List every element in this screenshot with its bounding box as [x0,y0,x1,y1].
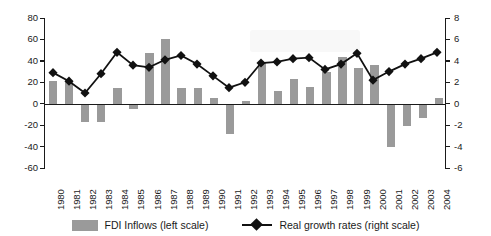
x-axis-labels: 1980198119821983198419851986198719881989… [44,170,446,214]
left-axis-tick-label: 80 [0,13,38,23]
data-point-marker-1994 [272,57,281,66]
x-axis-label-1985: 1985 [136,189,146,210]
x-axis-label-1988: 1988 [185,189,195,210]
line-series-layer [45,18,445,168]
x-axis-label-1991: 1991 [233,189,243,210]
data-point-marker-1987 [160,55,169,64]
x-axis-label-1992: 1992 [249,189,259,210]
x-axis-label-2000: 2000 [378,189,388,210]
zero-baseline [45,104,445,105]
right-axis-tick-label: 0 [454,99,459,109]
x-axis-label-2001: 2001 [394,189,404,210]
right-axis-tick-label: -4 [454,142,462,152]
right-axis-tick [445,146,450,147]
x-axis-label-1981: 1981 [72,189,82,210]
right-axis-tick [445,125,450,126]
left-axis-tick [40,146,45,147]
left-axis-labels: 806040200-20-40-60 [0,0,38,236]
chart-figure: 806040200-20-40-60 86420-2-4-6 198019811… [0,0,491,236]
right-axis-tick [445,168,450,169]
legend-item-fdi-inflows: FDI Inflows (left scale) [72,219,209,231]
data-point-marker-2000 [368,76,377,85]
left-axis-tick-label: 0 [0,99,38,109]
x-axis-label-1983: 1983 [104,189,114,210]
x-axis-label-1997: 1997 [329,189,339,210]
right-axis-tick [445,60,450,61]
left-axis-tick-label: 60 [0,34,38,44]
diamond-line-marker-icon [242,219,272,231]
right-axis-tick [445,103,450,104]
right-axis-tick-label: 2 [454,77,459,87]
x-axis-label-1999: 1999 [362,189,372,210]
x-axis-label-1993: 1993 [265,189,275,210]
right-axis-tick [445,82,450,83]
left-axis-tick-label: -20 [0,120,38,130]
data-point-marker-1988 [176,51,185,60]
x-axis-label-1989: 1989 [201,189,211,210]
data-point-marker-2004 [432,48,441,57]
x-axis-label-1986: 1986 [153,189,163,210]
x-axis-label-1982: 1982 [88,189,98,210]
left-axis-tick [40,125,45,126]
right-axis-tick-label: 4 [454,56,459,66]
legend-label-real-growth-rates: Real growth rates (right scale) [279,219,419,231]
legend-label-fdi-inflows: FDI Inflows (left scale) [105,219,209,231]
x-axis-label-1990: 1990 [217,189,227,210]
left-axis-tick-label: 40 [0,56,38,66]
data-point-marker-1995 [288,54,297,63]
left-axis-tick-label: 20 [0,77,38,87]
left-axis-tick [40,60,45,61]
right-axis-tick-label: -2 [454,120,462,130]
plot-area [44,18,446,168]
right-axis-tick-label: 6 [454,34,459,44]
x-axis-label-1995: 1995 [297,189,307,210]
data-point-marker-1980 [48,68,57,77]
x-axis-label-1984: 1984 [120,189,130,210]
x-axis-label-2002: 2002 [410,189,420,210]
right-axis-tick [445,39,450,40]
data-point-marker-2002 [400,59,409,68]
right-axis-tick-label: -6 [454,163,462,173]
left-axis-tick [40,39,45,40]
left-axis-tick-label: -60 [0,163,38,173]
x-axis-label-1998: 1998 [345,189,355,210]
bar-swatch-icon [72,220,98,231]
x-axis-label-1996: 1996 [313,189,323,210]
right-axis-tick [445,18,450,19]
left-axis-tick [40,168,45,169]
legend-item-real-growth-rates: Real growth rates (right scale) [242,219,419,231]
data-point-marker-2003 [416,54,425,63]
x-axis-label-2004: 2004 [442,189,452,210]
x-axis-label-2003: 2003 [426,189,436,210]
x-axis-label-1987: 1987 [169,189,179,210]
left-axis-tick [40,18,45,19]
data-point-marker-1986 [144,63,153,72]
left-axis-tick [40,103,45,104]
real-growth-line [53,52,437,93]
data-point-marker-2001 [384,67,393,76]
right-axis-tick-label: 8 [454,13,459,23]
right-axis-labels: 86420-2-4-6 [454,0,490,236]
x-axis-label-1980: 1980 [56,189,66,210]
left-axis-tick [40,82,45,83]
left-axis-tick-label: -40 [0,142,38,152]
x-axis-label-1994: 1994 [281,189,291,210]
chart-legend: FDI Inflows (left scale) Real growth rat… [0,214,491,236]
